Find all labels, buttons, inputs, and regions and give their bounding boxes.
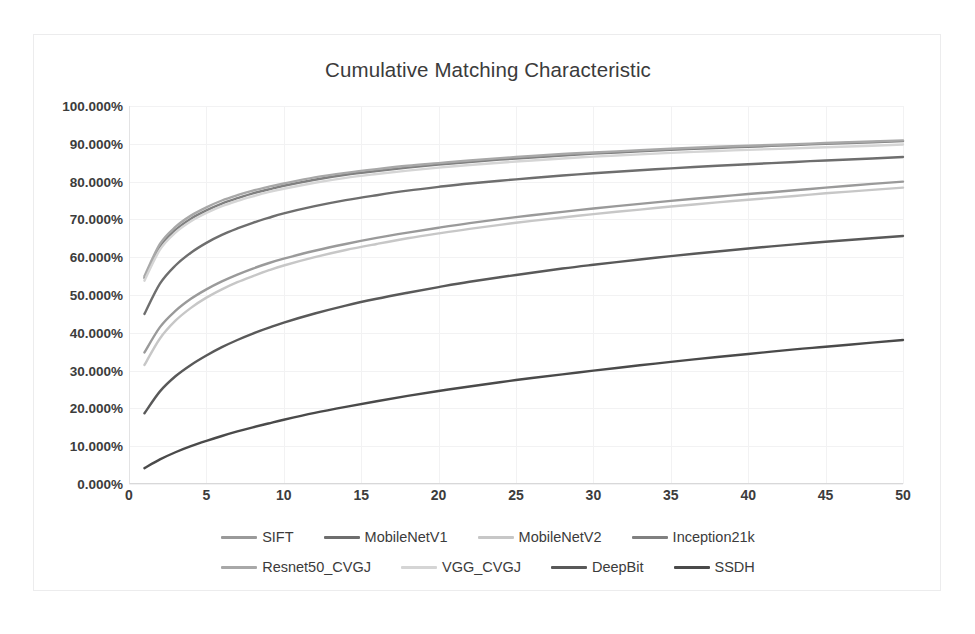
legend-label: Inception21k — [673, 529, 755, 545]
x-axis-tick-label: 5 — [202, 487, 210, 503]
y-axis-tick-label: 50.000% — [37, 288, 123, 303]
y-axis-tick-label: 70.000% — [37, 212, 123, 227]
legend-label: DeepBit — [592, 559, 644, 575]
y-axis-tick-label: 0.000% — [37, 477, 123, 492]
legend-row: Resnet50_CVGJVGG_CVGJDeepBitSSDH — [34, 552, 942, 582]
y-axis-tick-label: 30.000% — [37, 363, 123, 378]
y-axis-tick-labels: 0.000%10.000%20.000%30.000%40.000%50.000… — [34, 106, 123, 484]
chart-legend: SIFTMobileNetV1MobileNetV2Inception21kRe… — [34, 522, 942, 582]
x-axis-tick-label: 10 — [276, 487, 292, 503]
series-line-sift — [144, 182, 903, 353]
y-axis-tick-label: 40.000% — [37, 325, 123, 340]
legend-swatch-icon — [401, 566, 437, 569]
x-axis-tick-label: 50 — [895, 487, 911, 503]
legend-item-mobilenetv1[interactable]: MobileNetV1 — [324, 529, 448, 545]
gridline-vertical — [903, 106, 904, 484]
y-axis-tick-label: 90.000% — [37, 136, 123, 151]
x-axis-tick-label: 30 — [586, 487, 602, 503]
chart-figure: Cumulative Matching Characteristic 0.000… — [33, 34, 941, 591]
legend-item-ssdh[interactable]: SSDH — [674, 559, 755, 575]
legend-swatch-icon — [674, 566, 710, 569]
legend-label: MobileNetV2 — [519, 529, 602, 545]
x-axis-tick-label: 25 — [508, 487, 524, 503]
legend-swatch-icon — [478, 536, 514, 539]
series-line-ssdh — [144, 340, 903, 468]
legend-item-inception21k[interactable]: Inception21k — [632, 529, 755, 545]
x-axis-tick-label: 20 — [431, 487, 447, 503]
y-axis-tick-label: 80.000% — [37, 174, 123, 189]
legend-label: MobileNetV1 — [365, 529, 448, 545]
legend-item-vgg-cvgj[interactable]: VGG_CVGJ — [401, 559, 521, 575]
legend-item-resnet50-cvgj[interactable]: Resnet50_CVGJ — [221, 559, 371, 575]
series-line-deepbit — [144, 236, 903, 413]
legend-label: SIFT — [262, 529, 293, 545]
x-axis-tick-label: 40 — [740, 487, 756, 503]
y-axis-tick-label: 10.000% — [37, 439, 123, 454]
series-line-mobilenetv1 — [144, 157, 903, 314]
legend-label: VGG_CVGJ — [442, 559, 521, 575]
legend-item-sift[interactable]: SIFT — [221, 529, 293, 545]
y-axis-tick-label: 60.000% — [37, 250, 123, 265]
legend-row: SIFTMobileNetV1MobileNetV2Inception21k — [34, 522, 942, 552]
x-axis-tick-label: 15 — [353, 487, 369, 503]
legend-label: Resnet50_CVGJ — [262, 559, 371, 575]
series-lines — [129, 106, 903, 484]
legend-swatch-icon — [221, 566, 257, 569]
legend-swatch-icon — [551, 566, 587, 569]
x-axis-tick-label: 0 — [125, 487, 133, 503]
legend-swatch-icon — [632, 536, 668, 539]
legend-item-mobilenetv2[interactable]: MobileNetV2 — [478, 529, 602, 545]
legend-swatch-icon — [221, 536, 257, 539]
y-axis-tick-label: 100.000% — [37, 99, 123, 114]
x-axis-tick-label: 35 — [663, 487, 679, 503]
series-line-mobilenetv2 — [144, 188, 903, 365]
legend-label: SSDH — [715, 559, 755, 575]
legend-swatch-icon — [324, 536, 360, 539]
series-line-vgg-cvgj — [144, 145, 903, 281]
gridline-horizontal — [129, 484, 903, 485]
legend-item-deepbit[interactable]: DeepBit — [551, 559, 644, 575]
x-axis-tick-label: 45 — [818, 487, 834, 503]
plot-area — [129, 106, 903, 484]
y-axis-tick-label: 20.000% — [37, 401, 123, 416]
page-title: Cumulative Matching Characteristic — [34, 58, 942, 82]
x-axis-tick-labels: 05101520253035404550 — [129, 487, 903, 513]
